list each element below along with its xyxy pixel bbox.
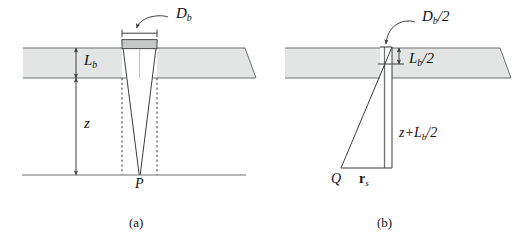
slab-a-right-fill [157,48,256,78]
leader-arrow-db [137,16,169,28]
slab-b [285,48,511,78]
label-lb: Lb [84,53,97,68]
panel-b-artwork [285,21,511,168]
label-rs: rs [359,172,369,186]
label-db: Db [176,6,192,21]
label-db-half: Db/2 [422,9,449,24]
figure-root: Db Lb z P Db/2 Lb/2 z+Lb/2 Q rs (a) (b) [0,0,522,245]
label-p: P [135,177,144,191]
label-q: Q [331,172,341,186]
slab-a-left-fill [23,48,122,78]
label-lb-half: Lb/2 [409,51,434,66]
leader-arrow-db-half [386,21,415,44]
figure-artwork [0,0,522,245]
label-z-plus-lb-half: z+Lb/2 [399,126,437,140]
label-z: z [84,116,90,131]
slab-b-left-fill [285,48,380,78]
panel-a-artwork [22,16,256,175]
caption-panel-a: (a) [129,215,143,231]
caption-panel-b: (b) [377,215,392,231]
aperture-box-a [122,40,157,49]
